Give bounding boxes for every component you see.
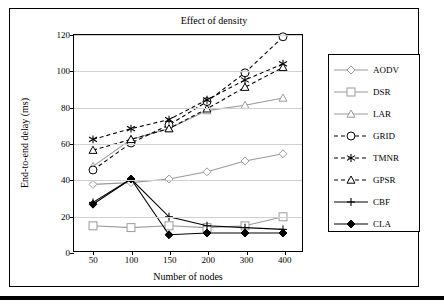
legend-marker-icon bbox=[333, 107, 369, 121]
gridline bbox=[74, 108, 302, 109]
y-tick-label: 80 bbox=[61, 103, 70, 113]
x-axis-label: Number of nodes bbox=[73, 271, 303, 282]
legend-label: TMNR bbox=[373, 153, 399, 163]
y-tick-mark bbox=[70, 180, 74, 181]
x-tick-label: 300 bbox=[240, 255, 254, 265]
legend-item-dsr[interactable]: DSR bbox=[329, 81, 419, 103]
legend-item-tmnr[interactable]: TMNR bbox=[329, 147, 419, 169]
y-tick-mark bbox=[70, 35, 74, 36]
chart-figure: Effect of density End-to-end delay (ms) … bbox=[0, 0, 444, 308]
legend-marker-icon bbox=[333, 85, 369, 99]
legend-label: LAR bbox=[373, 109, 391, 119]
x-tick-mark bbox=[247, 251, 248, 255]
x-tick-mark bbox=[208, 251, 209, 255]
x-tick-label: 200 bbox=[201, 255, 215, 265]
series-cla bbox=[89, 175, 287, 239]
y-tick-label: 120 bbox=[57, 30, 71, 40]
y-tick-mark bbox=[70, 108, 74, 109]
x-tick-label: 100 bbox=[125, 255, 139, 265]
x-tick-label: 400 bbox=[278, 255, 292, 265]
legend-item-grid[interactable]: GRID bbox=[329, 125, 419, 147]
legend-label: CBF bbox=[373, 197, 390, 207]
legend-label: CLA bbox=[373, 219, 391, 229]
y-tick-label: 40 bbox=[61, 175, 70, 185]
series-tmnr bbox=[89, 60, 287, 144]
bottom-rule bbox=[0, 296, 444, 300]
legend-label: GPSR bbox=[373, 175, 396, 185]
legend-marker-icon bbox=[333, 63, 369, 77]
legend-marker-icon bbox=[333, 173, 369, 187]
gridline bbox=[74, 144, 302, 145]
legend-marker-icon bbox=[333, 151, 369, 165]
legend-marker-icon bbox=[333, 195, 369, 209]
legend-marker-icon bbox=[333, 129, 369, 143]
chart-title: Effect of density bbox=[10, 15, 418, 26]
gridline bbox=[74, 217, 302, 218]
y-axis-label: End-to-end delay (ms) bbox=[19, 98, 30, 188]
gridline bbox=[74, 71, 302, 72]
plot-area: 02040608010012050100150200300400 bbox=[73, 34, 303, 252]
y-tick-mark bbox=[70, 253, 74, 254]
series-cbf bbox=[89, 175, 287, 233]
gridline bbox=[74, 180, 302, 181]
series-aodv bbox=[89, 150, 287, 189]
x-tick-mark bbox=[285, 251, 286, 255]
legend-item-gpsr[interactable]: GPSR bbox=[329, 169, 419, 191]
y-tick-mark bbox=[70, 217, 74, 218]
x-tick-mark bbox=[93, 251, 94, 255]
legend-item-cbf[interactable]: CBF bbox=[329, 191, 419, 213]
y-tick-label: 60 bbox=[61, 139, 70, 149]
legend-label: AODV bbox=[373, 65, 399, 75]
legend-label: GRID bbox=[373, 131, 395, 141]
x-tick-mark bbox=[132, 251, 133, 255]
chart-frame: Effect of density End-to-end delay (ms) … bbox=[9, 8, 419, 287]
y-tick-mark bbox=[70, 71, 74, 72]
series-layer bbox=[74, 35, 302, 251]
x-tick-label: 150 bbox=[163, 255, 177, 265]
legend-item-lar[interactable]: LAR bbox=[329, 103, 419, 125]
legend-label: DSR bbox=[373, 87, 391, 97]
legend-item-cla[interactable]: CLA bbox=[329, 213, 419, 235]
gridline bbox=[74, 35, 302, 36]
chart-legend: AODVDSRLARGRIDTMNRGPSRCBFCLA bbox=[328, 54, 420, 232]
x-tick-label: 50 bbox=[89, 255, 98, 265]
y-tick-label: 100 bbox=[57, 66, 71, 76]
legend-item-aodv[interactable]: AODV bbox=[329, 59, 419, 81]
y-tick-mark bbox=[70, 144, 74, 145]
series-dsr bbox=[89, 213, 287, 232]
x-tick-mark bbox=[170, 251, 171, 255]
legend-marker-icon bbox=[333, 217, 369, 231]
y-tick-label: 20 bbox=[61, 212, 70, 222]
